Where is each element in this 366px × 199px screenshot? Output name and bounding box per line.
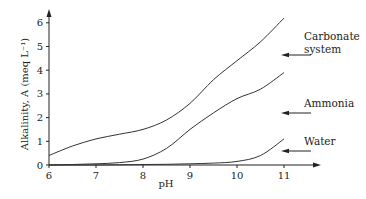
x-tick-label: 6 — [46, 170, 52, 181]
y-tick-label: 2 — [37, 112, 43, 123]
y-tick-label: 3 — [37, 88, 43, 99]
series-line-ammonia — [49, 73, 284, 165]
series-label-ammonia: Ammonia — [303, 97, 354, 109]
series-line-carbonate-system — [49, 18, 284, 155]
y-tick-label: 4 — [37, 65, 43, 76]
series-labels: CarbonatesystemAmmoniaWater — [281, 30, 360, 153]
y-tick-label: 0 — [37, 160, 43, 171]
series-line-water — [49, 139, 284, 165]
x-tick-label: 8 — [140, 170, 146, 181]
x-tick-label: 7 — [93, 170, 99, 181]
x-axis-arrow-icon — [313, 163, 321, 168]
y-tick-label: 1 — [37, 136, 43, 147]
arrow-left-icon — [281, 149, 289, 153]
series-label-carbonate-system: system — [304, 43, 341, 55]
x-tick-label: 11 — [278, 170, 291, 181]
series-lines — [49, 18, 284, 165]
y-tick-label: 6 — [37, 17, 43, 28]
arrow-left-icon — [281, 111, 289, 115]
series-label-water: Water — [304, 135, 337, 147]
x-tick-label: 10 — [231, 170, 244, 181]
x-axis-label: pH — [158, 178, 173, 189]
y-axis-arrow-icon — [47, 9, 52, 17]
alkalinity-chart: 678910110123456 CarbonatesystemAmmoniaWa… — [0, 0, 366, 199]
y-tick-label: 5 — [37, 41, 43, 52]
x-tick-label: 9 — [187, 170, 193, 181]
arrow-left-icon — [281, 53, 289, 57]
y-axis-label: Alkalinity, A (meq L⁻¹) — [19, 38, 30, 151]
series-label-carbonate-system: Carbonate — [304, 30, 360, 42]
axes: 678910110123456 — [37, 9, 321, 181]
